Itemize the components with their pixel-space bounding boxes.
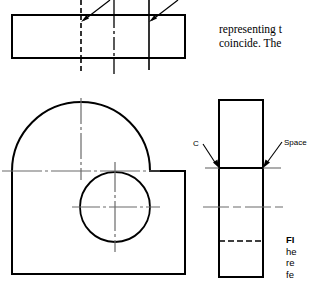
figure-caption-line-3: re [286,257,312,269]
side-view-outline [219,100,263,277]
side-view [203,100,283,277]
annotation-label-c: C [193,139,199,148]
body-text-line-2: coincide. The [219,36,281,50]
technical-drawing-page: representing t coincide. The C Space FI … [0,0,312,285]
top-view [12,0,185,74]
figure-caption: FI he re fe [286,234,312,280]
front-view [2,98,185,274]
c-leader [203,144,219,168]
annotation-label-space: Space [284,138,307,147]
body-text-line-1: representing t [219,22,282,36]
top-view-outline [12,15,185,58]
figure-caption-line-2: he [286,246,312,258]
figure-caption-label: FI [286,234,312,246]
space-leader [263,142,282,168]
figure-caption-line-4: fe [286,269,312,281]
